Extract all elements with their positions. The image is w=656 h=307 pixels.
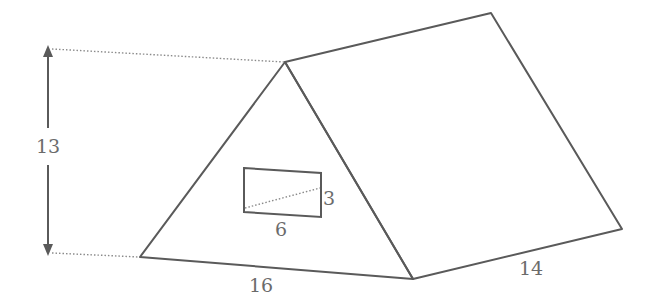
window-rectangle	[244, 168, 321, 217]
triangular-prism-diagram: 13 16 14 6 3	[0, 0, 656, 307]
window	[244, 168, 321, 217]
height-label: 13	[36, 135, 60, 157]
window-width-label: 6	[275, 218, 287, 240]
window-height-label: 3	[323, 187, 335, 209]
base-label: 16	[249, 274, 273, 296]
slanted-side-face	[285, 13, 622, 279]
arrow-up-icon	[43, 45, 53, 57]
length-label: 14	[519, 257, 543, 279]
bottom-guide-line	[52, 253, 139, 257]
prism-edges	[140, 13, 622, 279]
top-guide-line	[52, 49, 284, 62]
arrow-down-icon	[43, 244, 53, 256]
window-diagonal-dotted	[245, 188, 320, 208]
